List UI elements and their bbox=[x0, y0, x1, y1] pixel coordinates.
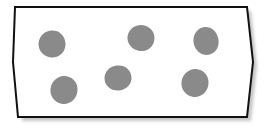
diagram-canvas bbox=[0, 0, 265, 128]
container-box bbox=[13, 7, 253, 117]
